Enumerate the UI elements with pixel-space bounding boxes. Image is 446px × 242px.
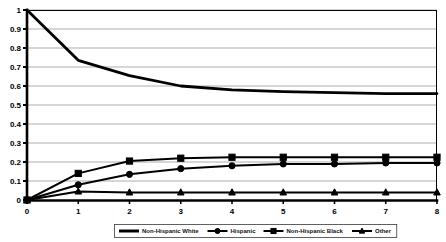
marker-square [75, 170, 81, 176]
x-tick-label: 8 [435, 207, 440, 216]
x-tick-label: 0 [25, 207, 30, 216]
y-tick-label: 0.2 [10, 158, 22, 167]
x-tick-label: 7 [384, 207, 389, 216]
legend-label: Non-Hispanic Black [287, 228, 344, 234]
marker-square [280, 154, 286, 160]
marker-square [434, 154, 440, 160]
y-tick-label: 0.5 [10, 101, 22, 110]
chart-canvas: 00.10.20.30.40.50.60.70.80.91 012345678 … [0, 0, 446, 242]
marker-square [178, 155, 184, 161]
chart-legend: Non-Hispanic WhiteHispanicNon-Hispanic B… [115, 225, 397, 238]
marker-circle [178, 166, 184, 172]
chart-background [0, 0, 446, 242]
legend-label: Non-Hispanic White [142, 228, 199, 234]
legend-label: Other [375, 228, 392, 234]
legend-label: Hispanic [231, 228, 257, 234]
marker-circle [215, 228, 220, 233]
marker-square [126, 158, 132, 164]
y-tick-label: 0.9 [10, 25, 22, 34]
x-tick-label: 4 [230, 207, 235, 216]
marker-circle [229, 163, 235, 169]
x-tick-label: 5 [281, 207, 286, 216]
legend-entry-non-hispanic-black[interactable]: Non-Hispanic Black [264, 228, 344, 234]
x-tick-label: 1 [76, 207, 81, 216]
marker-square [271, 228, 276, 233]
y-tick-label: 1 [17, 6, 22, 15]
marker-circle [331, 161, 337, 167]
marker-square [383, 154, 389, 160]
x-tick-label: 3 [179, 207, 184, 216]
y-tick-label: 0 [17, 196, 22, 205]
marker-circle [280, 161, 286, 167]
y-tick-label: 0.4 [10, 120, 22, 129]
marker-circle [126, 171, 132, 177]
y-tick-label: 0.7 [10, 63, 22, 72]
line-chart: 00.10.20.30.40.50.60.70.80.91 012345678 … [0, 0, 446, 242]
y-tick-label: 0.1 [10, 177, 22, 186]
marker-square [229, 154, 235, 160]
y-tick-label: 0.6 [10, 82, 22, 91]
x-tick-label: 6 [332, 207, 337, 216]
y-tick-label: 0.3 [10, 139, 22, 148]
y-tick-label: 0.8 [10, 44, 22, 53]
x-tick-label: 2 [127, 207, 132, 216]
marker-square [331, 154, 337, 160]
